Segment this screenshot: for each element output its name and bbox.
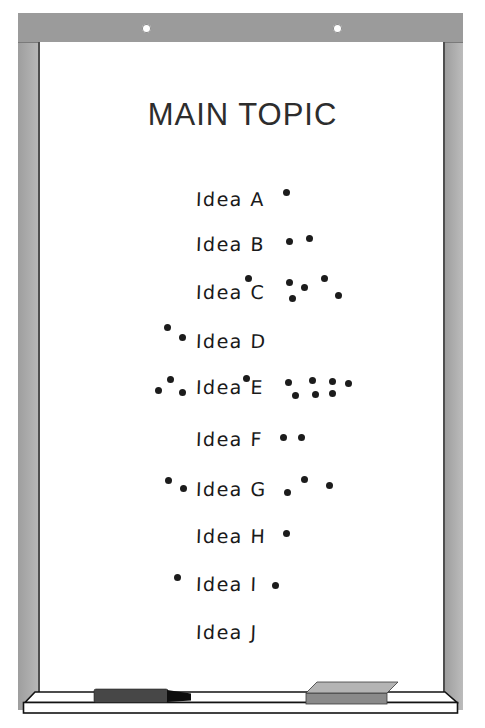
vote-dot bbox=[321, 275, 328, 282]
vote-dot bbox=[345, 380, 352, 387]
vote-dot bbox=[280, 434, 287, 441]
vote-dot bbox=[283, 530, 290, 537]
vote-dot bbox=[179, 334, 186, 341]
vote-dot bbox=[301, 476, 308, 483]
marker-tray bbox=[0, 674, 485, 728]
vote-dot bbox=[272, 582, 279, 589]
idea-label-j: Idea J bbox=[196, 621, 258, 643]
page-background: MAIN TOPIC Idea AIdea BIdea CIdea DIdea … bbox=[0, 0, 485, 728]
idea-label-h: Idea H bbox=[196, 525, 267, 547]
ideas-list: Idea AIdea BIdea CIdea DIdea EIdea FIdea… bbox=[0, 0, 485, 728]
tray-top-face bbox=[25, 692, 457, 703]
idea-label-e: Idea E bbox=[196, 376, 265, 398]
vote-dot bbox=[174, 574, 181, 581]
vote-dot bbox=[243, 375, 250, 382]
tray-front-face bbox=[24, 703, 458, 714]
vote-dot bbox=[283, 189, 290, 196]
eraser-top-face bbox=[306, 682, 398, 693]
vote-dot bbox=[245, 275, 252, 282]
vote-dot bbox=[285, 379, 292, 386]
idea-label-i: Idea I bbox=[196, 573, 258, 595]
vote-dot bbox=[286, 279, 293, 286]
eraser-front-face bbox=[306, 693, 387, 704]
vote-dot bbox=[312, 391, 319, 398]
vote-dot bbox=[309, 377, 316, 384]
vote-dot bbox=[335, 292, 342, 299]
idea-label-c: Idea C bbox=[196, 281, 266, 303]
marker-body bbox=[94, 689, 168, 703]
vote-dot bbox=[284, 489, 291, 496]
vote-dot bbox=[326, 482, 333, 489]
vote-dot bbox=[179, 389, 186, 396]
idea-label-f: Idea F bbox=[196, 428, 264, 450]
idea-label-b: Idea B bbox=[196, 233, 266, 255]
vote-dot bbox=[164, 324, 171, 331]
vote-dot bbox=[180, 485, 187, 492]
vote-dot bbox=[165, 477, 172, 484]
vote-dot bbox=[298, 434, 305, 441]
vote-dot bbox=[289, 295, 296, 302]
vote-dot bbox=[155, 387, 162, 394]
vote-dot bbox=[292, 392, 299, 399]
vote-dot bbox=[329, 390, 336, 397]
vote-dot bbox=[167, 376, 174, 383]
idea-label-a: Idea A bbox=[196, 188, 266, 210]
vote-dot bbox=[286, 238, 293, 245]
vote-dot bbox=[301, 284, 308, 291]
idea-label-d: Idea D bbox=[196, 330, 267, 352]
vote-dot bbox=[329, 378, 336, 385]
idea-label-g: Idea G bbox=[196, 478, 268, 500]
vote-dot bbox=[306, 235, 313, 242]
